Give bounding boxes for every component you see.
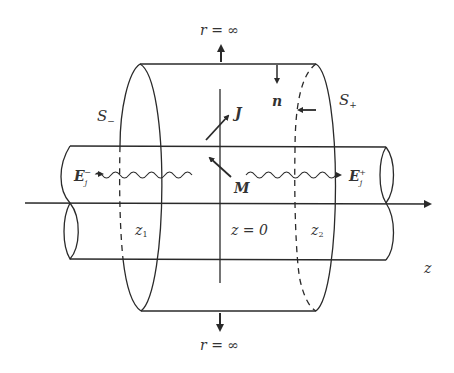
waveguide-top <box>70 146 386 147</box>
e-minus-wave <box>96 172 192 178</box>
r-inf-top-label: r = ∞ <box>200 22 239 38</box>
e-plus-label: Ej+ <box>348 168 366 187</box>
s-plus-label: S+ <box>339 91 357 110</box>
z2-label: z2 <box>310 222 323 239</box>
s-minus-right-arc <box>140 64 162 311</box>
s-minus-left-arc-top <box>120 64 140 146</box>
waveguide-bottom <box>70 259 386 260</box>
z0-label: z = 0 <box>230 222 268 238</box>
m-label: M <box>233 180 250 196</box>
z-axis-label: z <box>423 260 432 276</box>
z1-label: z1 <box>134 222 147 239</box>
e-minus-label: Ej− <box>73 168 91 187</box>
z-axis <box>25 203 430 204</box>
waveguide-diagram: r = ∞ r = ∞ n J M S− S+ Ej− Ej+ z1 z = 0… <box>0 0 454 373</box>
s-minus-left-arc-bottom <box>123 259 141 311</box>
s-minus-left-arc-hidden <box>120 146 123 259</box>
s-plus-left-arc-hidden <box>295 64 316 311</box>
j-current-arrow <box>206 116 228 140</box>
s-minus-label: S− <box>97 107 115 126</box>
r-inf-bottom-label: r = ∞ <box>200 337 239 353</box>
s-plus-right-arc <box>316 64 336 311</box>
j-label: J <box>232 105 243 121</box>
n-label: n <box>272 93 282 109</box>
e-plus-wave <box>246 172 340 178</box>
